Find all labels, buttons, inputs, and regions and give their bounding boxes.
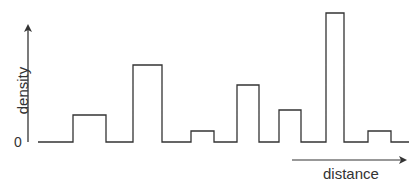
y-axis-zero-tick: 0 [14, 134, 22, 150]
y-axis-label: density [14, 61, 31, 121]
density-histogram [0, 0, 419, 192]
density-step-outline [38, 13, 409, 142]
x-axis-label: distance [323, 165, 379, 182]
